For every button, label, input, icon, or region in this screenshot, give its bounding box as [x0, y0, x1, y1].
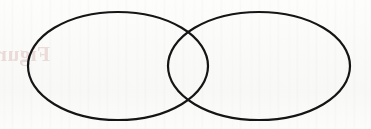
venn-ellipse-left-set [28, 12, 208, 120]
venn-ellipse-right-set [168, 12, 350, 120]
venn-diagram-canvas [0, 0, 371, 129]
venn-diagram-figure: Figure [0, 0, 371, 129]
